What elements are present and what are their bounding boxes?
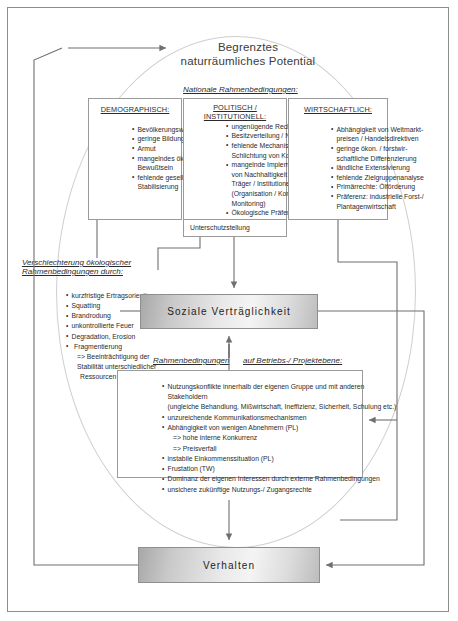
arrow-center-to-verhalten-right bbox=[318, 311, 424, 565]
line-politisch-left bbox=[158, 237, 200, 270]
line-wirtschaftlich-right-loop bbox=[338, 220, 397, 520]
diagram-page: Begrenztes naturräumliches Potential Nat… bbox=[0, 0, 458, 621]
line-verhalten-left-loop bbox=[34, 300, 138, 565]
line-left-up-to-title bbox=[34, 48, 62, 300]
connector-arrows bbox=[0, 0, 458, 621]
